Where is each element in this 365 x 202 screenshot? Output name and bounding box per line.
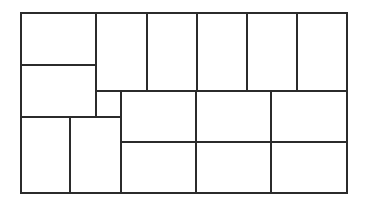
tile-r6 [247, 13, 297, 91]
tile-r8 [96, 91, 121, 117]
tile-r11 [121, 91, 196, 142]
tile-r12 [196, 91, 271, 142]
tile-r3 [96, 13, 147, 91]
tile-r14 [121, 142, 196, 193]
tile-r4 [147, 13, 197, 91]
tile-r5 [197, 13, 247, 91]
tile-r1 [21, 13, 96, 65]
rectangle-tiling-diagram [0, 0, 365, 202]
tile-r13 [271, 91, 347, 142]
tile-r2 [21, 65, 96, 117]
tile-r16 [271, 142, 347, 193]
tile-r9 [21, 117, 70, 193]
tile-r15 [196, 142, 271, 193]
tile-r10 [70, 117, 121, 193]
tile-r7 [297, 13, 347, 91]
